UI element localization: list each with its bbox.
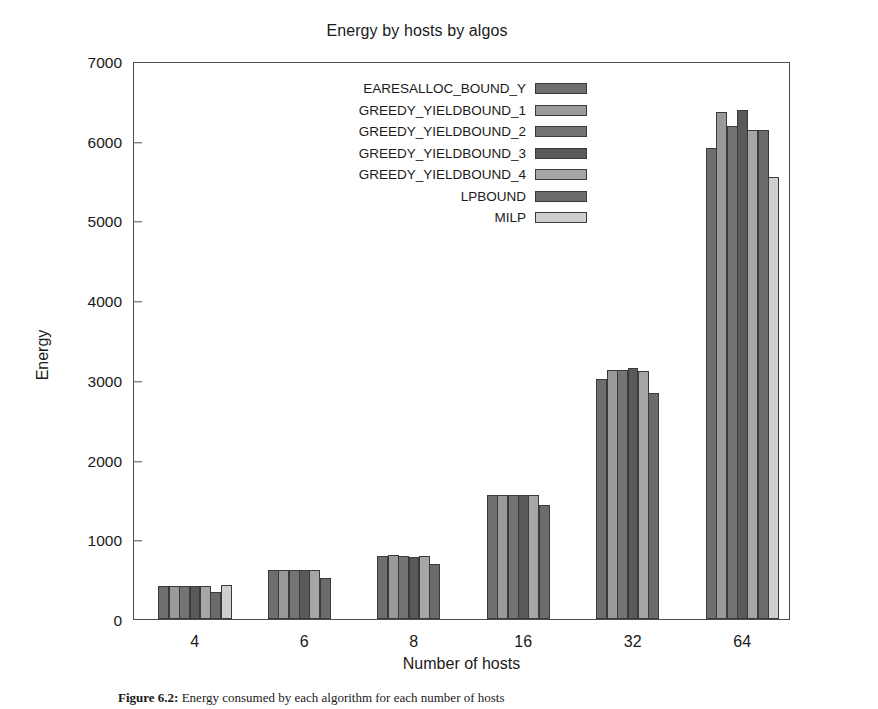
legend-item: GREEDY_YIELDBOUND_2: [335, 121, 587, 143]
x-axis-tick-label: 6: [300, 633, 309, 651]
bar-greedy_yieldbound_1-6: [278, 570, 289, 619]
figure-caption: Figure 6.2: Energy consumed by each algo…: [118, 690, 778, 709]
bar-lpbound-16: [539, 505, 550, 619]
y-axis-tick-label: 6000: [88, 134, 134, 152]
bar-greedy_yieldbound_2-6: [289, 570, 300, 619]
bar-greedy_yieldbound_4-4: [200, 586, 211, 619]
bar-lpbound-8: [429, 564, 440, 619]
bar-greedy_yieldbound_1-64: [716, 112, 727, 619]
bar-greedy_yieldbound_1-32: [607, 370, 618, 619]
x-axis-tick-label: 32: [624, 633, 642, 651]
y-axis-tick-label: 7000: [88, 54, 134, 72]
y-axis-label: Energy: [34, 329, 52, 380]
y-axis-tick-mark: [134, 461, 142, 462]
bar-greedy_yieldbound_3-8: [409, 557, 420, 619]
legend-item-swatch: [535, 191, 587, 202]
bar-earesalloc_bound_y-6: [268, 570, 279, 619]
legend-item-label: MILP: [494, 210, 535, 225]
bar-lpbound-32: [648, 393, 659, 619]
legend-item-label: GREEDY_YIELDBOUND_1: [359, 103, 535, 118]
bar-greedy_yieldbound_4-8: [419, 556, 430, 619]
y-axis-tick-label: 1000: [88, 532, 134, 550]
x-axis-tick-label: 64: [733, 633, 751, 651]
bar-earesalloc_bound_y-64: [706, 148, 717, 619]
bar-greedy_yieldbound_3-4: [190, 586, 201, 619]
legend-item: GREEDY_YIELDBOUND_4: [335, 164, 587, 186]
y-axis-tick-label: 0: [113, 612, 134, 630]
chart-legend: EARESALLOC_BOUND_YGREEDY_YIELDBOUND_1GRE…: [335, 78, 587, 229]
figure-container: Energy by hosts by algos Energy 01000200…: [0, 0, 878, 709]
legend-item: EARESALLOC_BOUND_Y: [335, 78, 587, 100]
legend-item-swatch: [535, 212, 587, 223]
bar-earesalloc_bound_y-8: [377, 556, 388, 619]
figure-caption-number: Figure 6.2:: [118, 690, 182, 705]
y-axis-tick-label: 4000: [88, 293, 134, 311]
legend-item-label: GREEDY_YIELDBOUND_2: [359, 124, 535, 139]
bar-greedy_yieldbound_2-32: [617, 370, 628, 619]
bar-greedy_yieldbound_2-16: [508, 495, 519, 619]
legend-item-swatch: [535, 105, 587, 116]
bar-greedy_yieldbound_4-16: [528, 495, 539, 619]
bar-lpbound-4: [210, 592, 221, 619]
bar-greedy_yieldbound_4-32: [638, 371, 649, 619]
legend-item-label: GREEDY_YIELDBOUND_3: [359, 146, 535, 161]
legend-item: GREEDY_YIELDBOUND_3: [335, 143, 587, 165]
bar-greedy_yieldbound_3-16: [518, 495, 529, 619]
y-axis-tick-label: 2000: [88, 453, 134, 471]
legend-item-label: GREEDY_YIELDBOUND_4: [359, 167, 535, 182]
bar-greedy_yieldbound_1-8: [388, 555, 399, 619]
bar-greedy_yieldbound_2-8: [398, 556, 409, 619]
legend-item-swatch: [535, 169, 587, 180]
y-axis-tick-mark: [134, 142, 142, 143]
bar-greedy_yieldbound_4-64: [747, 130, 758, 619]
bar-greedy_yieldbound_1-16: [497, 495, 508, 619]
y-axis-tick-mark: [134, 381, 142, 382]
y-axis-tick-mark: [134, 222, 142, 223]
bar-greedy_yieldbound_2-64: [727, 126, 738, 619]
bar-greedy_yieldbound_3-32: [628, 368, 639, 619]
bar-earesalloc_bound_y-4: [158, 586, 169, 619]
legend-item: MILP: [335, 207, 587, 229]
bar-greedy_yieldbound_1-4: [169, 586, 180, 619]
bar-greedy_yieldbound_2-4: [179, 586, 190, 619]
bar-lpbound-6: [320, 578, 331, 619]
bar-earesalloc_bound_y-16: [487, 495, 498, 619]
x-axis-tick-label: 4: [190, 633, 199, 651]
legend-item-label: EARESALLOC_BOUND_Y: [363, 81, 535, 96]
legend-item-swatch: [535, 83, 587, 94]
x-axis-label: Number of hosts: [133, 655, 790, 673]
legend-item-label: LPBOUND: [461, 189, 535, 204]
y-axis-tick-mark: [134, 301, 142, 302]
bar-earesalloc_bound_y-32: [596, 379, 607, 619]
bar-milp-64: [768, 177, 779, 619]
figure-caption-text: Energy consumed by each algorithm for ea…: [182, 690, 505, 705]
y-axis-tick-mark: [134, 541, 142, 542]
chart-title: Energy by hosts by algos: [0, 22, 856, 40]
bar-greedy_yieldbound_3-6: [299, 570, 310, 619]
legend-item-swatch: [535, 148, 587, 159]
x-axis-tick-label: 8: [409, 633, 418, 651]
legend-item-swatch: [535, 126, 587, 137]
bar-milp-4: [221, 585, 232, 619]
legend-item: LPBOUND: [335, 186, 587, 208]
x-axis-tick-label: 16: [514, 633, 532, 651]
y-axis-tick-label: 3000: [88, 373, 134, 391]
y-axis-tick-label: 5000: [88, 213, 134, 231]
legend-item: GREEDY_YIELDBOUND_1: [335, 100, 587, 122]
bar-greedy_yieldbound_4-6: [309, 570, 320, 619]
bar-greedy_yieldbound_3-64: [737, 110, 748, 619]
bar-lpbound-64: [758, 130, 769, 619]
